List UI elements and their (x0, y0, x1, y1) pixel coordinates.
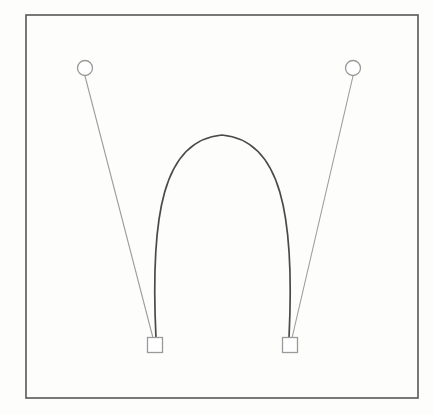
diagram-background (0, 0, 434, 415)
diagram-canvas (0, 0, 434, 415)
diagram-svg (0, 0, 434, 415)
left-anchor-node[interactable] (78, 61, 93, 76)
left-base-block[interactable] (148, 338, 163, 353)
right-anchor-node[interactable] (346, 61, 361, 76)
right-base-block[interactable] (283, 338, 298, 353)
